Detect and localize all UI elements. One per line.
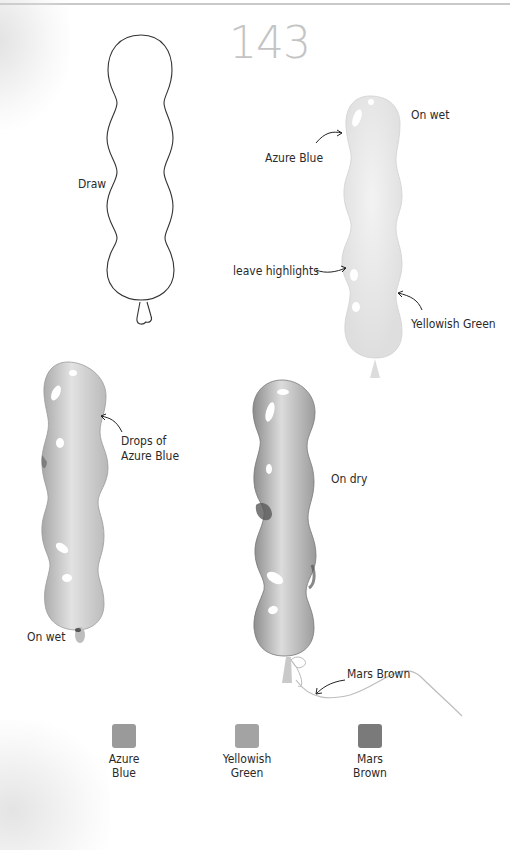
label-on-wet-first: On wet — [411, 108, 449, 122]
label-azure-blue: Azure Blue — [265, 151, 323, 165]
balloon-outline-drawing — [107, 35, 174, 324]
swatch-yellowish-green — [235, 724, 259, 748]
swatch-label-line1: Yellowish — [212, 752, 282, 766]
palette-mars-brown: Mars Brown — [335, 724, 405, 780]
balloon-first-wash — [316, 96, 422, 378]
label-draw: Draw — [78, 177, 106, 191]
label-mars-brown: Mars Brown — [347, 667, 410, 681]
label-drops-azure-blue: Azure Blue — [121, 449, 179, 463]
swatch-azure-blue — [112, 724, 136, 748]
label-on-dry: On dry — [331, 472, 367, 486]
balloon-final — [253, 380, 462, 716]
palette-azure-blue: Azure Blue — [89, 724, 159, 780]
label-yellowish-green: Yellowish Green — [411, 317, 496, 331]
balloon-second-wash — [42, 362, 122, 643]
swatch-label-line2: Blue — [89, 766, 159, 780]
label-drops-of: Drops of — [121, 434, 166, 448]
label-leave-highlights: leave highlights — [233, 264, 319, 278]
swatch-label-line1: Mars — [335, 752, 405, 766]
label-on-wet-second: On wet — [27, 630, 65, 644]
swatch-label-line2: Green — [212, 766, 282, 780]
swatch-label-line2: Brown — [335, 766, 405, 780]
palette-yellowish-green: Yellowish Green — [212, 724, 282, 780]
swatch-label-line1: Azure — [89, 752, 159, 766]
swatch-mars-brown — [358, 724, 382, 748]
